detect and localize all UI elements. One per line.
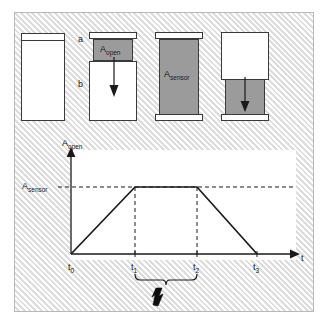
x-axis	[71, 250, 300, 259]
lightning-bolt-icon	[152, 288, 163, 306]
chart-svg	[0, 0, 328, 324]
duration-brace	[135, 274, 197, 285]
data-series-aopen	[71, 187, 257, 254]
y-axis	[67, 147, 76, 254]
figure-root: a b Aopen	[0, 0, 328, 324]
